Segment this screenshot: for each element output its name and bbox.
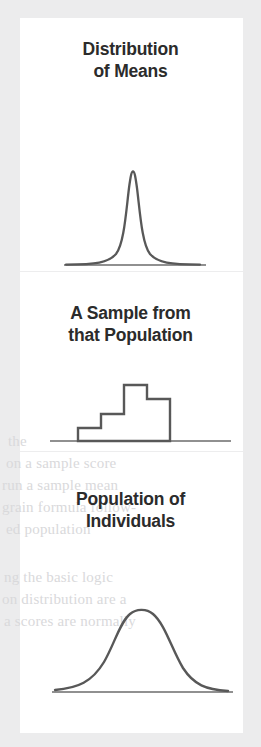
distribution-of-means-curve xyxy=(66,172,200,265)
population-of-individuals-curve xyxy=(55,610,228,691)
sample-histogram-chart xyxy=(0,368,261,452)
narrow-bell-curve-chart xyxy=(0,92,261,272)
panel-title-distribution-of-means: Distribution of Means xyxy=(0,38,261,82)
panel-title-population-of-individuals: Population of Individuals xyxy=(0,488,261,532)
sample-histogram-outline xyxy=(78,385,170,441)
plot-sample-from-population xyxy=(0,368,261,452)
figure-page: the on a sample score run a sample mean … xyxy=(0,0,261,747)
plot-population-of-individuals xyxy=(0,544,261,704)
panel-title-sample-from-population: A Sample from that Population xyxy=(0,302,261,346)
panel-population-of-individuals: Population of Individuals xyxy=(0,452,261,747)
panel-sample-from-population: A Sample from that Population xyxy=(0,272,261,452)
wide-bell-curve-chart xyxy=(0,544,261,704)
panel-distribution-of-means: Distribution of Means xyxy=(0,0,261,272)
plot-distribution-of-means xyxy=(0,92,261,272)
